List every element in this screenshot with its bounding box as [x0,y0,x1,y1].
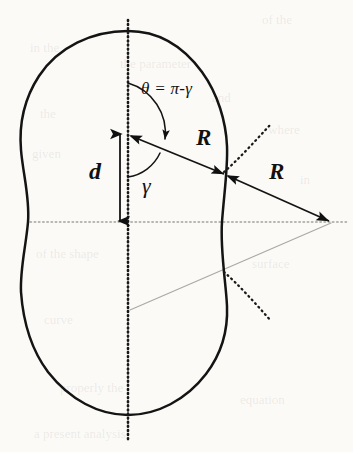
guide-line-lower-to-apex [130,223,331,310]
radius-upper-label: R [196,126,211,149]
theta-equation-label: θ = π-γ [141,80,192,97]
tangent-arc-lower [224,272,271,321]
diagram-canvas [0,0,353,452]
gamma-angle-label: γ [142,175,151,197]
peanut-contour [21,31,228,415]
tangent-arc-upper [224,124,271,172]
distance-d-label: d [89,159,101,183]
radius-lower-label: R [269,160,284,183]
figure-root: of the in the the parameter and the wher… [0,0,353,452]
